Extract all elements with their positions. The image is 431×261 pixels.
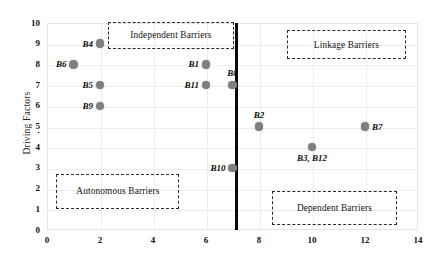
data-point-label: B11 — [184, 81, 199, 90]
data-point[interactable] — [228, 81, 237, 90]
data-point-label: B8 — [227, 69, 238, 78]
data-point[interactable] — [96, 39, 105, 48]
data-point[interactable] — [202, 60, 211, 69]
data-point[interactable] — [255, 122, 264, 131]
axis-stray-mark: · — [18, 128, 40, 137]
data-point-label: B6 — [56, 60, 67, 69]
quadrant-divider-line — [235, 23, 237, 230]
y-axis-tick-label: 4 — [18, 143, 40, 152]
data-point-label: B5 — [82, 81, 93, 90]
x-axis-tick-label: 2 — [88, 236, 112, 245]
data-point-label: B4 — [82, 39, 93, 48]
srq-matrix-chart: Driving Factors 012345678910·02468101214… — [0, 0, 431, 261]
x-axis-tick-label: 0 — [35, 236, 59, 245]
x-axis-tick-label: 6 — [194, 236, 218, 245]
quadrant-label-dependent-barriers: Dependent Barriers — [272, 191, 397, 226]
y-axis-tick-label: 7 — [18, 81, 40, 90]
data-point[interactable] — [361, 122, 370, 131]
x-axis-tick-label: 12 — [353, 236, 377, 245]
y-axis-tick-label: 8 — [18, 60, 40, 69]
x-axis-tick-label: 10 — [300, 236, 324, 245]
y-axis-tick-label: 10 — [18, 19, 40, 28]
data-point-label: B3, B12 — [297, 154, 327, 163]
y-axis-tick-label: 2 — [18, 184, 40, 193]
y-axis-tick-label: 6 — [18, 101, 40, 110]
x-axis-tick-label: 4 — [141, 236, 165, 245]
data-point[interactable] — [69, 60, 78, 69]
quadrant-label-linkage-barriers: Linkage Barriers — [287, 30, 406, 59]
y-axis-tick-label: 9 — [18, 39, 40, 48]
data-point-label: B1 — [188, 60, 199, 69]
x-axis-tick-label: 14 — [406, 236, 430, 245]
data-point-label: B9 — [82, 101, 93, 110]
data-point-label: B2 — [254, 111, 265, 120]
y-axis-tick-label: 3 — [18, 163, 40, 172]
y-axis-tick-label: 0 — [18, 226, 40, 235]
y-axis-tick-label: 1 — [18, 205, 40, 214]
data-point[interactable] — [228, 164, 237, 173]
x-axis-tick-label: 8 — [247, 236, 271, 245]
quadrant-label-autonomous-barriers: Autonomous Barriers — [56, 174, 179, 210]
quadrant-label-independent-barriers: Independent Barriers — [108, 22, 234, 49]
data-point-label: B10 — [210, 163, 225, 172]
data-point-label: B7 — [372, 122, 383, 131]
